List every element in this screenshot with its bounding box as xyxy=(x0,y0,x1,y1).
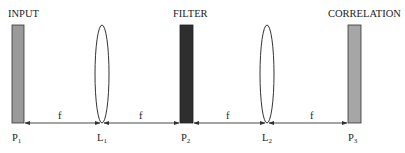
plane-label-p2: P2 xyxy=(181,132,191,145)
svg-text:L2: L2 xyxy=(262,132,272,145)
input-plane-plate xyxy=(12,25,24,123)
lens-l2 xyxy=(260,25,274,123)
svg-text:P1: P1 xyxy=(12,132,22,145)
filter-heading: FILTER xyxy=(173,8,208,19)
correlation-plane-plate xyxy=(348,25,361,123)
distance-label-3: f xyxy=(226,110,230,121)
svg-text:P2: P2 xyxy=(181,132,191,145)
distance-label-4: f xyxy=(310,110,314,121)
filter-plane-plate xyxy=(180,25,193,123)
distance-label-2: f xyxy=(139,110,143,121)
input-heading: INPUT xyxy=(8,8,40,19)
plane-label-l1: L1 xyxy=(97,132,107,145)
svg-text:L1: L1 xyxy=(97,132,107,145)
distance-label-1: f xyxy=(58,110,62,121)
plane-label-p3: P3 xyxy=(348,132,358,145)
optical-correlator-diagram: INPUT FILTER CORRELATION f f f f P1 L1 P… xyxy=(0,0,405,153)
correlation-heading: CORRELATION xyxy=(328,8,401,19)
plane-label-l2: L2 xyxy=(262,132,272,145)
svg-text:P3: P3 xyxy=(348,132,358,145)
plane-label-p1: P1 xyxy=(12,132,22,145)
lens-l1 xyxy=(95,25,109,123)
